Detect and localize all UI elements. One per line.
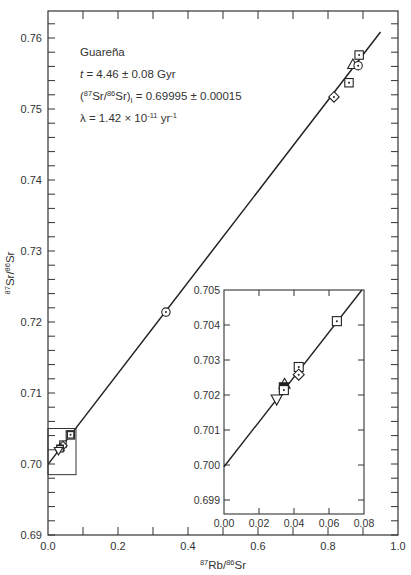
y-axis-title: 87Sr/86Sr <box>3 251 16 294</box>
svg-text:0.0: 0.0 <box>40 540 55 552</box>
svg-text:0.6: 0.6 <box>250 540 265 552</box>
svg-text:0.69: 0.69 <box>21 529 42 541</box>
svg-text:0.73: 0.73 <box>21 245 42 257</box>
age-annotation: t = 4.46 ± 0.08 Gyr <box>80 68 176 80</box>
svg-text:0.2: 0.2 <box>110 540 125 552</box>
svg-text:0.74: 0.74 <box>21 174 42 186</box>
svg-text:0.702: 0.702 <box>194 389 220 401</box>
svg-text:0.00: 0.00 <box>214 517 235 529</box>
svg-text:0.08: 0.08 <box>354 517 375 529</box>
isochron-chart: 0.00.20.40.60.81.00.690.700.710.720.730.… <box>0 0 411 575</box>
svg-text:0.70: 0.70 <box>21 458 42 470</box>
svg-text:0.71: 0.71 <box>21 387 42 399</box>
svg-text:0.4: 0.4 <box>180 540 195 552</box>
svg-text:0.704: 0.704 <box>194 319 220 331</box>
svg-text:0.699: 0.699 <box>194 494 220 506</box>
svg-text:0.8: 0.8 <box>320 540 335 552</box>
svg-text:0.02: 0.02 <box>249 517 270 529</box>
sample-name: Guareña <box>80 46 125 58</box>
x-axis-title: 87Rb/86Sr <box>200 558 246 571</box>
svg-text:0.703: 0.703 <box>194 354 220 366</box>
svg-text:0.72: 0.72 <box>21 316 42 328</box>
svg-text:0.04: 0.04 <box>284 517 305 529</box>
svg-text:0.76: 0.76 <box>21 32 42 44</box>
svg-text:1.0: 1.0 <box>390 540 405 552</box>
svg-text:0.75: 0.75 <box>21 103 42 115</box>
svg-text:0.705: 0.705 <box>194 284 220 296</box>
inset-plot: 0.000.020.040.060.080.6990.7000.7010.702… <box>194 284 375 529</box>
svg-text:0.701: 0.701 <box>194 424 220 436</box>
svg-text:0.06: 0.06 <box>319 517 340 529</box>
svg-text:0.700: 0.700 <box>194 459 220 471</box>
decay-constant-annotation: λ = 1.42 × 10-11 yr-1 <box>80 111 177 124</box>
initial-ratio-annotation: (87Sr/86Sr)I = 0.69995 ± 0.00015 <box>80 89 242 105</box>
